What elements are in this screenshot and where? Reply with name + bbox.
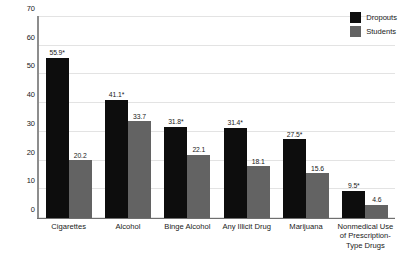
bar-dropouts[interactable] [105,100,128,218]
bar-chart-figure: Percent 010203040506070 55.9*20.2Cigaret… [0,0,403,265]
bar-group: 31.4*18.1 [224,17,270,218]
y-axis-tick-label: 0 [19,205,35,214]
legend-item-label: Students [366,27,396,36]
bar-students[interactable] [247,166,270,218]
x-axis-tick-label: Nonmedical Use of Prescription- Type Dru… [328,222,402,250]
bar-value-label: 41.1* [105,91,128,98]
bar-value-label: 55.9* [46,49,69,56]
legend-swatch-icon [350,26,361,37]
y-axis-tick-label: 60 [19,33,35,42]
y-axis-line [37,16,39,219]
y-axis-tick-label: 40 [19,90,35,99]
bar-group: 27.5*15.6 [283,17,329,218]
bar-value-label: 22.1 [187,146,210,153]
bar-value-label: 9.5* [342,182,365,189]
y-axis-tick-label: 20 [19,148,35,157]
bar-group: 9.5*4.6 [342,17,388,218]
bar-dropouts[interactable] [164,127,187,218]
bar-students[interactable] [187,155,210,218]
y-axis-tick-label: 70 [19,4,35,13]
y-axis-tick-label: 30 [19,119,35,128]
bar-value-label: 31.8* [164,118,187,125]
bar-dropouts[interactable] [224,128,247,218]
legend-item[interactable]: Students [350,26,397,37]
legend-item-label: Dropouts [366,13,397,22]
y-axis-tick-label: 50 [19,61,35,70]
bar-value-label: 20.2 [69,152,92,159]
x-axis-line [37,218,395,219]
y-axis-ticks: 010203040506070 [17,17,35,218]
bar-students[interactable] [69,160,92,218]
bar-students[interactable] [365,205,388,218]
bar-value-label: 18.1 [247,158,270,165]
bar-dropouts[interactable] [46,58,69,219]
bar-group: 55.9*20.2 [46,17,92,218]
bar-dropouts[interactable] [342,191,365,218]
bar-value-label: 15.6 [306,165,329,172]
bar-group: 31.8*22.1 [164,17,210,218]
bar-value-label: 27.5* [283,131,306,138]
y-axis-title: Percent [0,95,14,155]
bar-dropouts[interactable] [283,139,306,218]
bar-value-label: 33.7 [128,113,151,120]
chart-legend: DropoutsStudents [350,12,397,37]
legend-item[interactable]: Dropouts [350,12,397,23]
y-axis-tick-label: 10 [19,176,35,185]
legend-swatch-icon [350,12,361,23]
bar-value-label: 4.6 [365,196,388,203]
bar-group: 41.1*33.7 [105,17,151,218]
bar-value-label: 31.4* [224,119,247,126]
bar-students[interactable] [128,121,151,218]
bar-students[interactable] [306,173,329,218]
